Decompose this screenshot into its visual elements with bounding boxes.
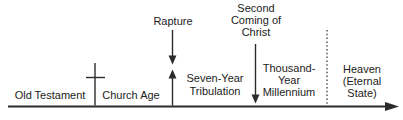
- right-arrow-icon: [385, 102, 399, 111]
- timeline-axis: [8, 102, 399, 111]
- era-label-thousand-year-millennium: Thousand- Year Millennium: [263, 62, 316, 98]
- down-arrow-icon: [169, 30, 177, 65]
- timeline-diagram: Rapture Second Coming of Christ Old Test…: [0, 0, 403, 120]
- event-label-second-coming: Second Coming of Christ: [231, 2, 281, 38]
- timeline-graphics: [0, 0, 403, 120]
- era-label-old-testament: Old Testament: [15, 89, 86, 101]
- era-label-heaven-eternal-state: Heaven (Eternal State): [343, 63, 382, 99]
- down-arrow-icon: [252, 44, 260, 104]
- event-label-rapture: Rapture: [153, 15, 192, 27]
- era-label-church-age: Church Age: [102, 89, 159, 101]
- up-arrow-icon: [169, 70, 177, 106]
- era-label-seven-year-tribulation: Seven-Year Tribulation: [186, 72, 243, 98]
